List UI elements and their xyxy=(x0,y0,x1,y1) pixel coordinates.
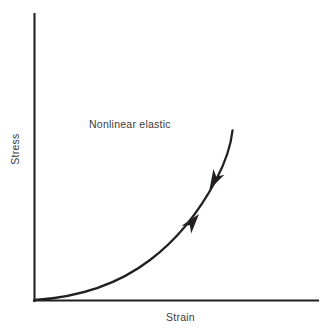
unloading-arrow-icon xyxy=(204,169,224,192)
loading-arrow-icon xyxy=(182,210,204,233)
stress-strain-curve xyxy=(35,131,233,301)
figure-canvas xyxy=(0,0,333,332)
curve-annotation-label: Nonlinear elastic xyxy=(89,118,171,130)
y-axis-label: Stress xyxy=(9,133,21,164)
x-axis-label: Strain xyxy=(166,311,195,323)
nonlinear-elastic-stress-strain-figure: Nonlinear elastic Strain Stress xyxy=(0,0,333,332)
